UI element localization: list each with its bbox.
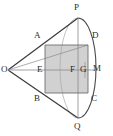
- point-label-o: O: [1, 65, 8, 74]
- point-label-d: D: [92, 31, 99, 40]
- point-label-a: A: [34, 31, 41, 40]
- point-label-g: G: [80, 65, 87, 74]
- point-label-f: F: [70, 65, 75, 74]
- point-label-m: M: [93, 64, 101, 73]
- geometry-figure: O P Q A B C D E F G M: [0, 0, 113, 136]
- point-label-e: E: [37, 65, 43, 74]
- point-label-p: P: [74, 3, 79, 12]
- point-label-c: C: [91, 94, 97, 103]
- point-label-q: Q: [74, 122, 81, 131]
- point-label-b: B: [34, 94, 40, 103]
